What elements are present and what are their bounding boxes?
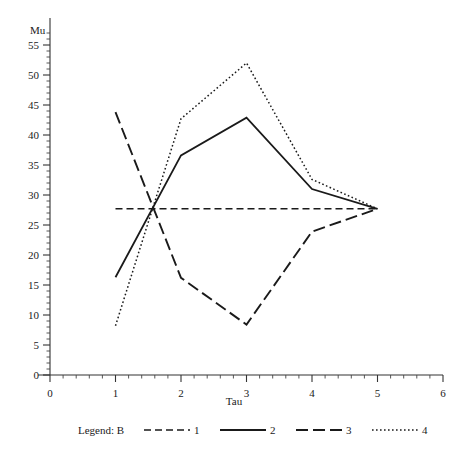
legend-label-2: 2 (270, 424, 276, 436)
x-tick-label: 1 (113, 387, 119, 399)
y-axis-title: Mu (30, 24, 46, 36)
x-axis-title: Tau (226, 395, 243, 407)
y-tick-label: 20 (28, 249, 40, 261)
y-tick-label: 50 (28, 69, 40, 81)
y-tick-label: 25 (28, 219, 40, 231)
y-tick-label: 10 (28, 309, 40, 321)
y-tick-label: 55 (28, 39, 40, 51)
y-tick-label: 35 (28, 159, 40, 171)
y-tick-label: 5 (34, 339, 40, 351)
x-tick-label: 2 (178, 387, 184, 399)
series-line-4 (116, 63, 378, 326)
x-tick-label: 3 (244, 387, 250, 399)
y-tick-label: 45 (28, 99, 40, 111)
x-tick-label: 5 (375, 387, 381, 399)
x-tick-label: 0 (47, 387, 53, 399)
y-tick-label: 40 (28, 129, 40, 141)
series-line-3 (116, 112, 378, 324)
chart-container: 0510152025303540455055 0123456 Legend: B… (0, 0, 468, 453)
legend-label-3: 3 (346, 424, 352, 436)
legend-label-4: 4 (422, 424, 428, 436)
y-tick-label: 30 (28, 189, 40, 201)
y-axis: 0510152025303540455055 (28, 18, 50, 381)
legend-label-1: 1 (194, 424, 200, 436)
series-line-2 (116, 118, 378, 278)
chart-legend: Legend: B1234 (78, 424, 428, 436)
line-chart: 0510152025303540455055 0123456 Legend: B… (0, 0, 468, 453)
data-series-group (116, 63, 378, 326)
x-tick-label: 4 (309, 387, 315, 399)
x-tick-label: 6 (440, 387, 446, 399)
legend-title: Legend: B (78, 424, 124, 436)
y-tick-label: 15 (28, 279, 40, 291)
